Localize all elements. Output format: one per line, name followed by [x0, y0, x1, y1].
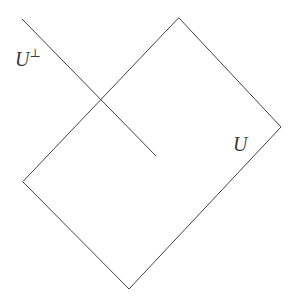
label-u: U	[233, 134, 247, 154]
label-u-perp-base: U	[15, 48, 29, 70]
figure-canvas: U⊥ U	[0, 0, 297, 298]
diagram-svg	[0, 0, 297, 298]
label-u-perp: U⊥	[15, 48, 41, 69]
perpendicular-icon: ⊥	[29, 46, 40, 60]
